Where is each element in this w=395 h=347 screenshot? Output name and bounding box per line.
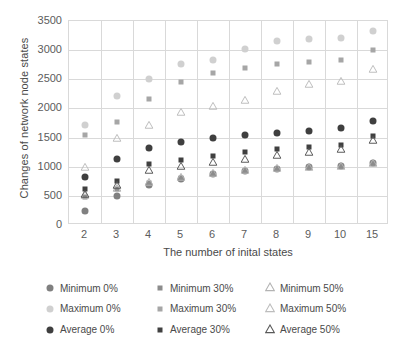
data-point [82, 208, 89, 215]
gridline-horizontal [69, 108, 387, 109]
data-point [179, 80, 184, 85]
legend-item[interactable]: Average 30% [154, 324, 264, 336]
data-point [83, 132, 88, 137]
triangle-marker-icon [264, 303, 276, 315]
data-point [177, 161, 186, 170]
data-point [177, 107, 186, 116]
gridline-vertical [357, 21, 358, 223]
legend-item-label: Minimum 30% [170, 283, 233, 294]
x-axis-tick: 3 [113, 228, 119, 240]
legend-item[interactable]: Maximum 50% [264, 303, 374, 315]
triangle-marker-icon [264, 282, 276, 294]
gridline-horizontal [69, 50, 387, 51]
data-point [178, 139, 185, 146]
data-point [242, 131, 249, 138]
x-axis-tick: 10 [334, 228, 346, 240]
data-point [145, 120, 154, 129]
gridline-vertical [101, 21, 102, 223]
legend-item[interactable]: Minimum 0% [44, 282, 154, 294]
gridline-vertical [165, 21, 166, 223]
legend-item-label: Maximum 30% [170, 303, 236, 314]
legend-item[interactable]: Average 50% [264, 324, 374, 336]
data-point [82, 174, 89, 181]
gridline-vertical [197, 21, 198, 223]
data-point [145, 166, 154, 175]
legend-item[interactable]: Minimum 30% [154, 282, 264, 294]
data-point [242, 45, 249, 52]
plot-area [68, 20, 388, 224]
x-axis-tick: 8 [273, 228, 279, 240]
data-point [115, 120, 120, 125]
x-axis-tick-labels: 234567891015 [68, 228, 388, 244]
data-point [113, 181, 122, 190]
x-axis-tick: 7 [241, 228, 247, 240]
data-point [305, 148, 314, 157]
legend-item-label: Average 50% [280, 324, 340, 335]
data-point [114, 92, 121, 99]
gridline-vertical [325, 21, 326, 223]
legend-item-label: Minimum 0% [60, 283, 118, 294]
data-point [243, 65, 248, 70]
data-point [178, 61, 185, 68]
data-point [339, 58, 344, 63]
data-point [177, 173, 186, 182]
data-point [274, 129, 281, 136]
data-point [146, 145, 153, 152]
y-axis-tick: 3500 [38, 14, 62, 26]
x-axis-tick: 6 [209, 228, 215, 240]
circle-marker-icon [44, 303, 56, 315]
data-point [241, 95, 250, 104]
y-axis-tick: 2000 [38, 101, 62, 113]
legend-item[interactable]: Maximum 0% [44, 303, 154, 315]
data-point [114, 155, 121, 162]
data-point [369, 65, 378, 74]
square-marker-icon [154, 324, 166, 336]
legend-item-label: Average 0% [60, 324, 114, 335]
data-point [337, 77, 346, 86]
data-point [114, 192, 121, 199]
legend-item[interactable]: Maximum 30% [154, 303, 264, 315]
data-point [81, 162, 90, 171]
gridline-vertical [133, 21, 134, 223]
legend-item-label: Average 30% [170, 324, 230, 335]
data-point [210, 135, 217, 142]
data-point [371, 48, 376, 53]
data-point [209, 169, 218, 178]
y-axis-tick: 1000 [38, 160, 62, 172]
x-axis-tick: 15 [366, 228, 378, 240]
x-axis-tick: 9 [305, 228, 311, 240]
legend-item-label: Maximum 50% [280, 303, 346, 314]
data-point [274, 37, 281, 44]
x-axis-tick: 4 [145, 228, 151, 240]
y-axis-tick: 1500 [38, 131, 62, 143]
data-point [338, 35, 345, 42]
legend-item[interactable]: Minimum 50% [264, 282, 374, 294]
data-point [370, 28, 377, 35]
data-point [338, 124, 345, 131]
x-axis-tick: 2 [81, 228, 87, 240]
legend-item-label: Minimum 50% [280, 283, 343, 294]
data-point [209, 102, 218, 111]
scatter-chart: Changes of network node states 050010001… [0, 0, 395, 347]
data-point [82, 121, 89, 128]
square-marker-icon [154, 303, 166, 315]
data-point [305, 79, 314, 88]
data-point [210, 57, 217, 64]
data-point [273, 151, 282, 160]
data-point [306, 36, 313, 43]
data-point [209, 158, 218, 167]
data-point [147, 96, 152, 101]
y-axis-tick: 3000 [38, 43, 62, 55]
legend-item-label: Maximum 0% [60, 303, 121, 314]
gridline-vertical [293, 21, 294, 223]
data-point [306, 127, 313, 134]
data-point [337, 162, 346, 171]
data-point [337, 145, 346, 154]
data-point [145, 177, 154, 186]
data-point [81, 189, 90, 198]
x-axis-title: The number of inital states [68, 246, 388, 258]
legend-item[interactable]: Average 0% [44, 324, 154, 336]
data-point [307, 60, 312, 65]
chart-legend: Minimum 0%Minimum 30%Minimum 50%Maximum … [44, 278, 374, 340]
data-point [370, 117, 377, 124]
